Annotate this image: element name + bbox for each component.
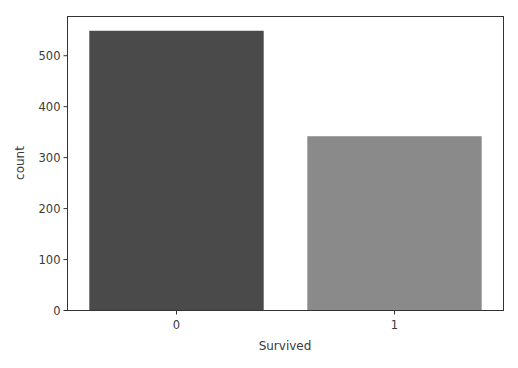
- bar-0: [89, 31, 263, 311]
- x-axis-label: Survived: [259, 339, 312, 353]
- y-tick-label: 0: [53, 304, 60, 318]
- bar-chart: 0100200300400500 01 count Survived: [0, 0, 518, 368]
- y-tick-label: 400: [39, 100, 61, 114]
- bars-group: [89, 31, 481, 311]
- y-tick-label: 500: [39, 49, 61, 63]
- y-axis-label: count: [13, 146, 27, 180]
- y-axis-ticks: 0100200300400500: [39, 49, 68, 318]
- y-tick-label: 100: [39, 253, 61, 267]
- x-tick-label: 0: [173, 318, 180, 332]
- x-axis-ticks: 01: [173, 311, 398, 332]
- x-tick-label: 1: [391, 318, 398, 332]
- y-tick-label: 300: [39, 151, 61, 165]
- bar-1: [307, 136, 481, 310]
- y-tick-label: 200: [39, 202, 61, 216]
